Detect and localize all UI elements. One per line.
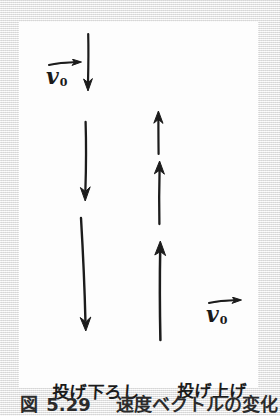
velocity-vector-down-2 (79, 120, 103, 202)
figure-caption: 図 5.29 速度ベクトルの変化 (20, 390, 270, 416)
figure-panel: v0 (19, 22, 258, 388)
initial-velocity-symbol: v0 (206, 303, 226, 325)
velocity-vector-up-2 (151, 160, 175, 226)
velocity-vector-up-1 (150, 110, 174, 156)
velocity-vector-down-1 (81, 32, 105, 92)
velocity-vector-up-3 (151, 240, 177, 342)
caption-text: 速度ベクトルの変化 (116, 394, 278, 415)
scanned-page-background: v0 (0, 0, 280, 416)
caption-figure-word: 図 (20, 394, 38, 415)
initial-velocity-label-up: v0 (206, 294, 252, 334)
initial-velocity-symbol: v0 (46, 65, 66, 87)
caption-figure-number: 5.29 (46, 394, 90, 415)
velocity-vector-down-3 (76, 216, 102, 332)
